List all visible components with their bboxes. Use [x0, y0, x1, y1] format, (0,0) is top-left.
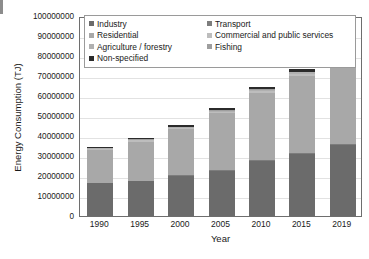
bar-2010: [249, 87, 275, 217]
legend-label: Agriculture / forestry: [97, 42, 172, 52]
legend-label: Fishing: [215, 42, 242, 52]
y-axis-tick-label: 30000000: [12, 152, 74, 161]
bar-segment: [209, 171, 235, 216]
y-axis-tick-label: 0: [12, 212, 74, 221]
legend-item: Transport: [207, 19, 251, 29]
y-axis-tick-label: 100000000: [12, 12, 74, 21]
legend-row: ResidentialCommercial and public service…: [89, 30, 351, 42]
bar-segment: [289, 154, 315, 216]
y-axis-tick-labels: 0100000002000000030000000400000005000000…: [12, 0, 74, 259]
bar-segment: [249, 93, 275, 160]
legend-item: Non-specified: [89, 53, 207, 63]
x-axis-tick-labels: 1990199520002005201020152019: [79, 219, 362, 233]
legend-label: Non-specified: [97, 53, 148, 63]
bar-segment: [289, 76, 315, 153]
bar-2015: [289, 69, 315, 216]
gridline: [80, 78, 361, 79]
legend-swatch-icon: [89, 33, 94, 38]
bar-segment: [330, 59, 356, 144]
legend-swatch-icon: [89, 44, 94, 49]
legend-item: Fishing: [207, 42, 242, 52]
y-axis-tick-label: 60000000: [12, 92, 74, 101]
bar-segment: [330, 145, 356, 216]
y-axis-tick-label: 10000000: [12, 192, 74, 201]
bar-2005: [209, 108, 235, 217]
bar-segment: [128, 142, 154, 181]
y-axis-tick-label: 70000000: [12, 72, 74, 81]
y-axis-tick-label: 80000000: [12, 52, 74, 61]
bar-segment: [209, 113, 235, 170]
x-axis-tick-label: 2010: [238, 219, 284, 229]
legend-label: Transport: [215, 19, 251, 29]
bar-segment: [168, 129, 194, 175]
legend-label: Commercial and public services: [215, 30, 333, 40]
legend-label: Residential: [97, 30, 138, 40]
legend-label: Industry: [97, 19, 127, 29]
legend-row: Agriculture / forestryFishing: [89, 41, 351, 53]
legend-item: Commercial and public services: [207, 30, 333, 40]
legend-swatch-icon: [207, 33, 212, 38]
x-axis-tick-label: 2000: [157, 219, 203, 229]
scan-edge-artifact: [0, 0, 3, 14]
legend-swatch-icon: [207, 44, 212, 49]
legend-item: Residential: [89, 30, 207, 40]
bar-1995: [128, 138, 154, 216]
energy-consumption-chart: Energy Consumption (TJ) 0100000002000000…: [0, 0, 369, 259]
bar-segment: [168, 176, 194, 216]
bar-segment: [87, 150, 113, 183]
bar-segment: [128, 181, 154, 216]
chart-legend: IndustryTransportResidentialCommercial a…: [84, 15, 356, 68]
bar-2019: [330, 51, 356, 216]
x-axis-tick-label: 2005: [198, 219, 244, 229]
legend-swatch-icon: [89, 56, 94, 61]
bar-segment: [87, 183, 113, 216]
y-axis-tick-label: 90000000: [12, 32, 74, 41]
x-axis-tick-label: 1990: [76, 219, 122, 229]
legend-row: Non-specified: [89, 53, 351, 65]
legend-row: IndustryTransport: [89, 18, 351, 30]
bar-2000: [168, 125, 194, 216]
x-axis-tick-label: 2019: [319, 219, 365, 229]
legend-swatch-icon: [207, 21, 212, 26]
legend-item: Agriculture / forestry: [89, 42, 207, 52]
bar-segment: [249, 161, 275, 216]
x-axis-title: Year: [79, 233, 362, 244]
y-axis-tick-label: 20000000: [12, 172, 74, 181]
legend-swatch-icon: [89, 21, 94, 26]
x-axis-tick-label: 2015: [278, 219, 324, 229]
gridline: [80, 98, 361, 99]
legend-item: Industry: [89, 19, 207, 29]
y-axis-tick-label: 40000000: [12, 132, 74, 141]
x-axis-tick-label: 1995: [117, 219, 163, 229]
y-axis-tick-label: 50000000: [12, 112, 74, 121]
bar-1990: [87, 147, 113, 216]
